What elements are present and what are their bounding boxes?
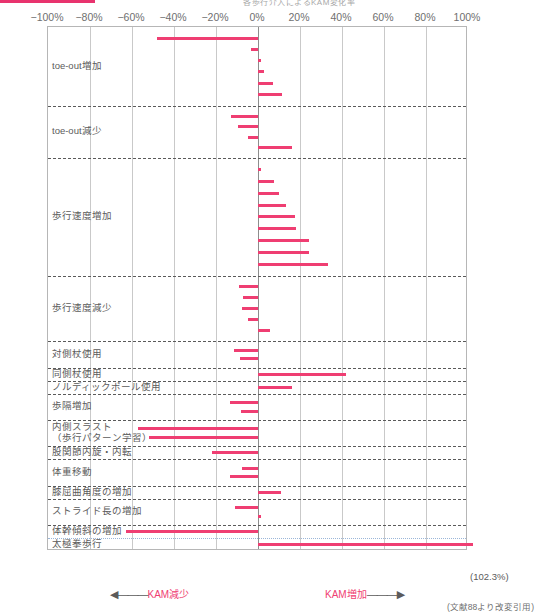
- data-bar: [258, 215, 295, 218]
- data-bar: [248, 318, 259, 321]
- data-bar: [258, 515, 261, 518]
- data-bar: [258, 180, 274, 183]
- data-bar: [258, 192, 279, 195]
- x-axis-tick-100: 100%: [454, 11, 481, 23]
- data-bar: [258, 82, 273, 85]
- data-bar: [258, 251, 309, 254]
- row-label: toe-out増加: [52, 60, 102, 71]
- data-bar: [157, 37, 258, 40]
- row-label: 同側杖使用: [52, 368, 102, 379]
- data-bar: [258, 386, 292, 389]
- data-bar: [248, 136, 259, 139]
- data-bar: [258, 168, 261, 171]
- row-label: ノルディックポール使用: [52, 381, 161, 392]
- row-label: ストライド長の増加: [52, 505, 142, 516]
- data-bar: [258, 204, 286, 207]
- data-bar: [258, 543, 473, 546]
- row-label: 股関節内旋・内転: [52, 446, 132, 457]
- row-separator: [48, 158, 466, 159]
- data-bar: [235, 506, 258, 509]
- x-axis-tick-0: 0%: [249, 11, 264, 23]
- data-bar: [258, 70, 264, 73]
- row-separator: [48, 499, 466, 500]
- kam-increase-label: KAM増加: [325, 589, 367, 600]
- x-axis-tick--40: −40%: [159, 11, 186, 23]
- row-label: 対側杖使用: [52, 348, 102, 359]
- row-separator: [48, 459, 466, 460]
- row-label: 歩行速度減少: [52, 302, 112, 313]
- row-label: 体重移動: [52, 466, 92, 477]
- chart-title-fragment: 各歩行介入によるKAM変化率: [243, 0, 533, 7]
- x-axis-tick-20: 20%: [288, 11, 309, 23]
- kam-increase-annotation: KAM増加———▶: [325, 586, 404, 601]
- data-bar: [251, 48, 258, 51]
- overflow-value-label: (102.3%): [470, 571, 509, 582]
- data-bar: [126, 530, 258, 533]
- x-axis-tick-80: 80%: [414, 11, 435, 23]
- chart-page: 各歩行介入によるKAM変化率 −100%−80%−60%−40%−20%0%20…: [0, 0, 540, 615]
- data-bar: [258, 59, 261, 62]
- left-arrow-icon: ◀———: [110, 588, 147, 600]
- x-axis-tick--20: −20%: [201, 11, 228, 23]
- data-bar: [238, 125, 258, 128]
- row-label: 歩行速度増加: [52, 210, 112, 221]
- data-bar: [258, 491, 281, 494]
- data-bar: [258, 227, 296, 230]
- data-bar: [258, 263, 328, 266]
- row-label: toe-out減少: [52, 125, 102, 136]
- data-bar: [239, 285, 258, 288]
- x-axis-tick--60: −60%: [117, 11, 144, 23]
- data-bar: [258, 146, 292, 149]
- row-label: 体幹傾斜の増加: [52, 525, 122, 536]
- row-separator: [48, 538, 466, 539]
- data-bar: [212, 451, 258, 454]
- data-bar: [149, 436, 258, 439]
- row-label: 歩隔増加: [52, 400, 92, 411]
- plot-area: [47, 26, 467, 550]
- row-separator: [48, 276, 466, 277]
- x-axis-tick--80: −80%: [75, 11, 102, 23]
- row-separator: [48, 394, 466, 395]
- row-label: 太極拳歩行: [52, 538, 102, 549]
- x-axis-tick--100: −100%: [31, 11, 64, 23]
- row-separator: [48, 106, 466, 107]
- data-bar: [231, 115, 258, 118]
- data-bar: [230, 401, 258, 404]
- row-separator: [48, 368, 466, 369]
- data-bar: [234, 349, 258, 352]
- data-bar: [242, 467, 258, 470]
- data-bar: [241, 410, 258, 413]
- data-bar: [258, 329, 270, 332]
- data-bar: [230, 475, 258, 478]
- data-bar: [258, 93, 282, 96]
- kam-decrease-label: KAM減少: [147, 589, 189, 600]
- data-bar: [258, 373, 346, 376]
- row-label: 膝屈曲角度の増加: [52, 486, 132, 497]
- x-axis-tick-40: 40%: [330, 11, 351, 23]
- data-bar: [240, 357, 258, 360]
- data-bar: [243, 296, 258, 299]
- citation-note: (文献88より改変引用): [447, 600, 534, 612]
- kam-decrease-annotation: ◀———KAM減少: [110, 586, 189, 601]
- row-label: 内側スラスト （歩行パターン学習）: [52, 421, 152, 443]
- data-bar: [242, 307, 258, 310]
- data-bar: [138, 427, 258, 430]
- top-accent-bar: [0, 0, 95, 3]
- row-separator: [48, 341, 466, 342]
- x-axis-tick-labels: −100%−80%−60%−40%−20%0%20%40%60%80%100%: [0, 11, 540, 25]
- right-arrow-icon: ———▶: [367, 588, 404, 600]
- x-axis-tick-60: 60%: [372, 11, 393, 23]
- data-bar: [258, 239, 309, 242]
